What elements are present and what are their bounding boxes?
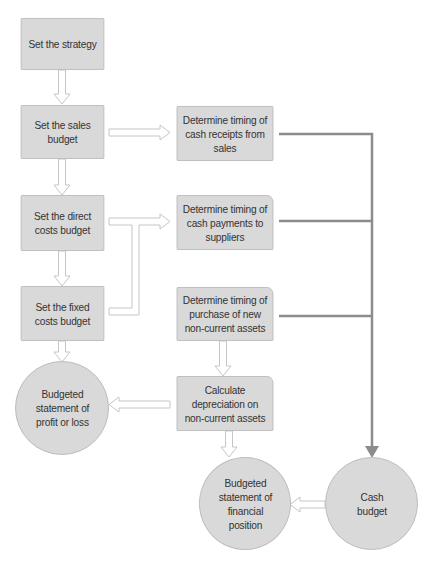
node-financial-position-statement: Budgeted statement of financial position <box>199 457 291 550</box>
node-label: Set the sales budget <box>34 118 90 146</box>
node-label: Cash budget <box>357 490 387 518</box>
arrow-direct-to-fixed-costs <box>54 251 70 286</box>
node-asset-purchase-timing: Determine timing of purchase of new non-… <box>177 287 274 341</box>
line-cash-receipts-to-cash-budget <box>279 134 372 448</box>
arrow-purchase-to-depreciation <box>215 341 231 376</box>
node-cash-payments-timing: Determine timing of cash payments to sup… <box>177 195 274 250</box>
arrow-sales-to-cash-receipts <box>109 125 170 140</box>
node-label: Set the strategy <box>28 37 96 51</box>
node-label: Determine timing of purchase of new non-… <box>183 293 267 335</box>
node-profit-or-loss-statement: Budgeted statement of profit or loss <box>15 361 109 455</box>
node-label: Set the direct costs budget <box>34 209 91 237</box>
node-label: Budgeted statement of profit or loss <box>35 387 89 429</box>
node-cash-budget: Cash budget <box>325 457 418 550</box>
node-depreciation: Calculate depreciation on non-current as… <box>177 376 274 431</box>
arrow-strategy-to-sales <box>54 70 70 104</box>
node-label: Determine timing of cash receipts from s… <box>183 113 267 155</box>
arrow-sales-to-direct-costs <box>54 159 70 195</box>
node-set-strategy: Set the strategy <box>21 18 105 70</box>
node-direct-costs-budget: Set the direct costs budget <box>21 195 105 251</box>
node-label: Determine timing of cash payments to sup… <box>183 202 267 244</box>
node-fixed-costs-budget: Set the fixed costs budget <box>21 286 105 341</box>
node-label: Budgeted statement of financial position <box>218 476 272 532</box>
node-sales-budget: Set the sales budget <box>21 105 105 159</box>
budget-flowchart: .ha { fill: #ffffff; stroke: #c6c6c6; st… <box>0 0 430 562</box>
arrow-fixed-costs-to-profit-loss <box>54 341 70 362</box>
arrow-cash-budget-to-financial-position <box>290 497 325 512</box>
arrow-depreciation-to-profit-loss <box>109 397 170 412</box>
node-label: Calculate depreciation on non-current as… <box>185 383 266 425</box>
arrow-costs-to-cash-payments <box>109 214 170 315</box>
node-label: Set the fixed costs budget <box>35 300 90 328</box>
node-cash-receipts-timing: Determine timing of cash receipts from s… <box>177 106 274 161</box>
arrow-depreciation-to-financial-position <box>221 431 237 457</box>
